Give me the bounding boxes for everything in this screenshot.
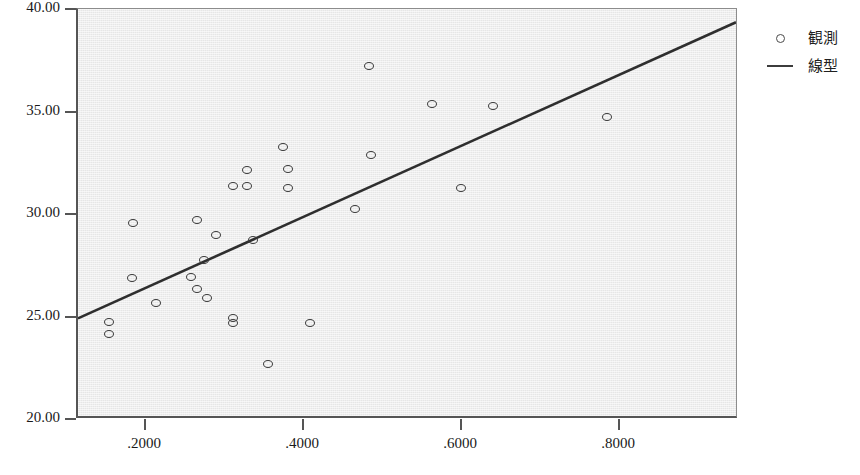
x-tick-label: .2000 [104,436,184,451]
data-point [192,285,202,293]
data-point [305,319,315,327]
y-tick-mark [65,213,76,215]
legend-item-observed[interactable]: 観測 [762,24,860,52]
data-point [228,182,238,190]
data-point [151,299,161,307]
legend: 観測 線型 [762,24,860,80]
data-point [127,274,137,282]
y-tick-label: 30.00 [0,205,60,220]
x-tick-label: .8000 [578,436,658,451]
x-tick-mark [302,419,304,430]
y-tick-mark [65,316,76,318]
x-tick-label: .4000 [262,436,342,451]
plot-area [76,8,737,418]
data-points-layer [78,9,736,416]
data-point [242,166,252,174]
data-point [128,219,138,227]
y-tick-mark [65,418,76,420]
data-point [427,100,437,108]
data-point [248,236,258,244]
data-point [186,273,196,281]
data-point [104,318,114,326]
data-point [278,143,288,151]
y-tick-mark [65,8,76,10]
data-point [602,113,612,121]
data-point [192,216,202,224]
scatter-chart: 20.0025.0030.0035.0040.00 .2000.4000.600… [0,0,860,475]
data-point [456,184,466,192]
line-marker-icon [762,65,798,67]
legend-item-linear[interactable]: 線型 [762,52,860,80]
x-tick-mark [144,419,146,430]
data-point [364,62,374,70]
data-point [488,102,498,110]
circle-marker-icon [762,34,798,43]
data-point [202,294,212,302]
y-tick-mark [65,111,76,113]
data-point [104,330,114,338]
y-tick-label: 40.00 [0,0,60,15]
y-tick-label: 25.00 [0,308,60,323]
legend-label-linear: 線型 [798,57,838,75]
x-tick-mark [460,419,462,430]
data-point [211,231,221,239]
data-point [366,151,376,159]
data-point [350,205,360,213]
legend-label-observed: 観測 [798,29,838,47]
data-point [283,165,293,173]
data-point [199,256,209,264]
y-tick-label: 20.00 [0,410,60,425]
data-point [228,319,238,327]
data-point [283,184,293,192]
x-tick-label: .6000 [420,436,500,451]
x-tick-mark [618,419,620,430]
y-tick-label: 35.00 [0,103,60,118]
data-point [263,360,273,368]
data-point [242,182,252,190]
